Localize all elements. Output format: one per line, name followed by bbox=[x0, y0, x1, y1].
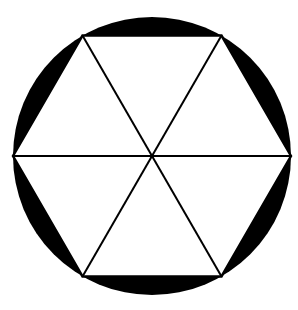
figure-canvas: Black circle with inscribed white hexago… bbox=[0, 0, 298, 310]
geometric-figure-svg bbox=[0, 0, 298, 310]
